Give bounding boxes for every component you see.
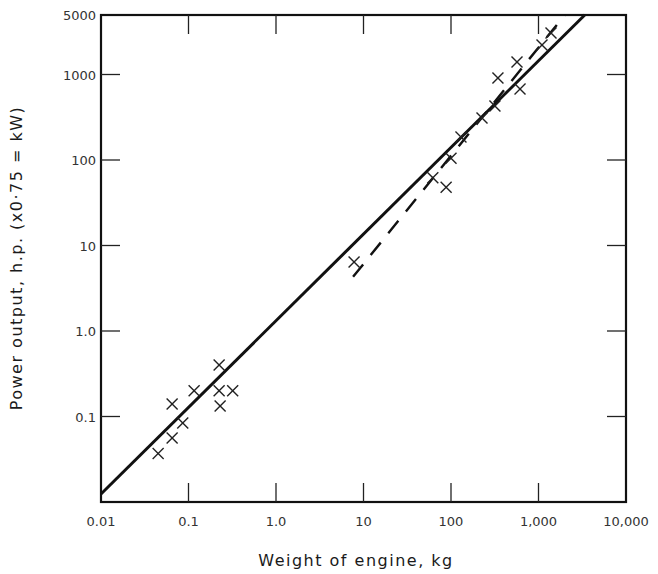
y-tick-label: 1.0 [75, 324, 96, 339]
y-tick-label: 5000 [63, 8, 96, 23]
fit-lines [101, 15, 585, 494]
x-marker-icon [515, 84, 526, 95]
x-marker-icon [349, 257, 360, 268]
dashed-fit-line [353, 15, 565, 277]
x-axis-title: Weight of engine, kg [258, 551, 454, 570]
x-marker-icon [227, 385, 238, 396]
x-marker-icon [446, 153, 457, 164]
x-marker-icon [189, 385, 200, 396]
x-marker-icon [441, 182, 452, 193]
x-marker-icon [177, 417, 188, 428]
y-axis-title: Power output, h.p. (x0·75 = kW) [7, 106, 26, 411]
x-tick-label: 1,000 [520, 514, 557, 529]
x-marker-icon [427, 172, 438, 183]
x-marker-icon [546, 28, 557, 39]
plot-border [101, 15, 626, 502]
x-tick-label: 10,000 [603, 514, 649, 529]
x-marker-icon [492, 73, 503, 84]
x-marker-icon [536, 40, 547, 51]
x-tick-label: 1.0 [266, 514, 287, 529]
x-tick-label: 0.01 [87, 514, 116, 529]
x-marker-icon [215, 400, 226, 411]
solid-fit-line [101, 15, 585, 494]
plot-frame [101, 15, 626, 502]
x-marker-icon [214, 385, 225, 396]
y-tick-label: 1000 [63, 68, 96, 83]
y-tick-label: 100 [71, 153, 96, 168]
x-tick-label: 10 [355, 514, 372, 529]
x-marker-icon [476, 112, 487, 123]
x-axis-ticks: 0.010.11.0101001,00010,000 [87, 15, 649, 529]
y-axis-ticks: 0.11.01010010005000 [63, 8, 626, 425]
chart: 0.010.11.0101001,00010,000 0.11.01010010… [0, 0, 658, 574]
x-tick-label: 100 [439, 514, 464, 529]
x-marker-icon [214, 360, 225, 371]
y-tick-label: 10 [79, 239, 96, 254]
x-marker-icon [153, 448, 164, 459]
x-tick-label: 0.1 [178, 514, 199, 529]
x-marker-icon [512, 57, 523, 68]
x-marker-icon [167, 433, 178, 444]
x-marker-icon [167, 399, 178, 410]
y-tick-label: 0.1 [75, 410, 96, 425]
